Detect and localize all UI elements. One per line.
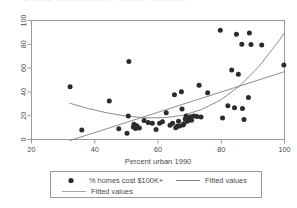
scatter-point [150,121,155,126]
y-tick-group [28,21,32,140]
scatter-point [232,105,237,110]
x-axis-title: Percent urban 1990 [125,157,192,166]
legend-label-fitted-2: Fitted values [91,187,133,196]
x-tick-label-20: 20 [28,145,36,154]
scatter-point [240,106,245,111]
scatter-point [126,59,131,64]
legend: % homes cost $100K+ Fitted values Fitted… [51,172,262,198]
x-tick-label-100: 100 [279,145,291,154]
scatter-point [176,119,181,124]
scatter-point [170,121,175,126]
scatter-point [246,95,251,100]
scatter-point [126,113,131,118]
scatter-point [172,92,177,97]
y-tick-label-40: 40 [19,88,28,96]
x-tick-label-40: 40 [91,145,99,154]
legend-label-scatter: % homes cost $100K+ [89,176,163,185]
y-tick-label-80: 80 [19,40,28,48]
scatter-point [199,115,204,120]
scatter-point [247,30,252,35]
scatter-point [68,84,73,89]
scatter-point [225,103,230,108]
scatter-point [137,126,142,131]
y-tick-label-0: 0 [19,138,28,142]
scatter-point [205,90,210,95]
scatter-point [242,117,247,122]
scatter-point [160,119,165,124]
y-axis: 0 20 40 60 80 100 [19,15,32,142]
scatter-point [234,32,239,37]
x-tick-label-80: 80 [217,145,225,154]
scatter-point [189,118,194,123]
scatter-point [107,99,112,104]
scatter-point [236,72,241,77]
scatter-point [259,42,264,47]
scatter-point [281,63,286,68]
y-tick-label-20: 20 [19,112,28,120]
x-tick-label-60: 60 [154,145,162,154]
scatter-point [154,127,159,132]
scatter-point [116,126,121,131]
y-tick-label-100: 100 [19,15,28,27]
scatter-point [164,110,169,115]
scatter-point [218,28,223,33]
y-tick-label-60: 60 [19,64,28,72]
scatter-point [248,42,253,47]
scatter-point [125,131,130,136]
chart-svg: 0 20 40 60 80 100 20 40 60 80 100 Percen… [0,0,297,208]
legend-label-fitted-1: Fitted values [205,176,247,185]
scatter-point [239,42,244,47]
legend-marker-icon [68,178,73,183]
scatter-plot-figure: 0 20 40 60 80 100 20 40 60 80 100 Percen… [0,0,297,208]
scatter-point [180,107,185,112]
scatter-point [197,83,202,88]
scatter-point [79,128,84,133]
x-axis: 20 40 60 80 100 Percent urban 1990 [28,140,291,167]
scatter-point [179,89,184,94]
scatter-point [220,115,225,120]
scatter-point [229,67,234,72]
